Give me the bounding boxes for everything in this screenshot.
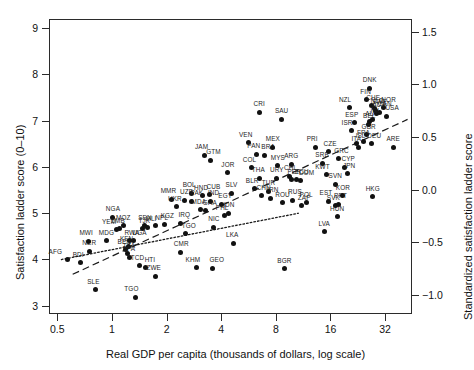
data-point <box>208 158 213 163</box>
y-tick-right <box>412 295 419 296</box>
point-label: CRI <box>254 101 265 107</box>
point-label: DEU <box>367 133 381 139</box>
x-tick <box>276 314 277 321</box>
data-point <box>93 287 98 292</box>
data-point <box>86 239 91 244</box>
y-axis-title-left: Satisfaction ladder score (0–10) <box>14 125 26 280</box>
data-point <box>182 198 187 203</box>
point-label: ARE <box>386 136 399 142</box>
point-label: SLV <box>226 182 238 188</box>
y-tick-right <box>412 137 419 138</box>
point-label: SRB <box>315 152 328 158</box>
y-tick-left <box>42 306 49 307</box>
data-point <box>153 274 158 279</box>
point-label: COL <box>243 157 256 163</box>
data-point <box>87 249 92 254</box>
y-tick-left <box>42 74 49 75</box>
point-label: ARG <box>284 153 298 159</box>
point-label: KGZ <box>161 213 174 219</box>
data-point <box>262 153 267 158</box>
y-tick-label-right: 0.0 <box>422 184 437 196</box>
data-point <box>268 196 273 201</box>
data-point <box>65 257 70 262</box>
point-label: TGO <box>182 222 196 228</box>
point-label: HUN <box>330 205 344 211</box>
point-label: BFA <box>123 246 135 252</box>
data-point <box>78 260 83 265</box>
point-label: SVN <box>329 173 342 179</box>
x-tick-label: 4 <box>218 323 224 335</box>
data-point <box>335 214 340 219</box>
y-tick-left <box>42 28 49 29</box>
x-tick-label: 8 <box>273 323 279 335</box>
point-label: PAN <box>247 143 260 149</box>
point-label: UKR <box>168 195 182 201</box>
point-label: KOR <box>336 184 350 190</box>
x-tick-label: 0.5 <box>50 323 65 335</box>
point-label: VEN <box>239 131 252 137</box>
point-label: USA <box>385 105 398 111</box>
data-point <box>391 145 396 150</box>
x-tick <box>112 314 113 321</box>
data-point <box>384 114 389 119</box>
x-tick <box>385 314 386 321</box>
point-label: MDG <box>99 229 114 235</box>
point-label: GRC <box>334 147 349 153</box>
point-label: NIC <box>208 216 219 222</box>
point-label: NZL <box>339 96 351 102</box>
y-tick-label-right: 1.0 <box>422 78 437 90</box>
point-label: GEO <box>210 257 225 263</box>
y-tick-label-left: 8 <box>32 68 38 80</box>
point-label: SAU <box>275 108 288 114</box>
x-tick <box>330 314 331 321</box>
data-point <box>361 139 366 144</box>
data-point <box>178 250 183 255</box>
point-label: YEM <box>102 219 116 225</box>
y-tick-label-left: 4 <box>32 253 38 265</box>
y-tick-right <box>412 84 419 85</box>
y-tick-right <box>412 32 419 33</box>
y-tick-label-right: −0.5 <box>422 236 443 248</box>
x-tick-label: 1 <box>109 323 115 335</box>
point-label: LVA <box>319 220 330 226</box>
point-label: TCD <box>131 255 144 261</box>
point-label: SLE <box>87 278 99 284</box>
y-tick-label-left: 9 <box>32 22 38 34</box>
x-tick-label: 32 <box>379 323 391 335</box>
x-tick <box>221 314 222 321</box>
point-label: ISR <box>342 120 353 126</box>
data-point <box>345 171 350 176</box>
y-tick-left <box>42 213 49 214</box>
point-label: ESP <box>345 111 358 117</box>
y-tick-left <box>42 121 49 122</box>
point-label: KHM <box>186 256 201 262</box>
point-label: CMR <box>174 241 189 247</box>
point-label: EST <box>320 190 333 196</box>
point-label: PHL <box>216 204 229 210</box>
data-point <box>257 110 262 115</box>
x-tick-label: 2 <box>164 323 170 335</box>
scatter-plot-figure: Satisfaction ladder score (0–10) Standar… <box>0 0 474 370</box>
y-axis-title-right: Standardized satisfaction ladder score <box>462 134 474 321</box>
data-point <box>162 222 167 227</box>
data-point <box>133 295 138 300</box>
y-tick-label-right: 1.5 <box>422 26 437 38</box>
point-label: ROU <box>275 191 290 197</box>
point-label: HTI <box>145 256 156 262</box>
point-label: KWT <box>315 163 330 169</box>
point-label: LKA <box>226 232 238 238</box>
plot-area: AFGBDINERMWISLEMDGZWETGOMOZNGAZMBYEMRWAU… <box>49 19 412 314</box>
y-tick-left <box>42 259 49 260</box>
y-tick-left <box>42 167 49 168</box>
y-tick-label-left: 6 <box>32 161 38 173</box>
point-label: NGA <box>106 206 120 212</box>
point-label: BGR <box>277 257 291 263</box>
point-label: DNK <box>363 77 377 83</box>
data-point <box>270 145 275 150</box>
point-label: BDI <box>73 251 84 257</box>
point-label: ZAF <box>298 194 310 200</box>
point-label: IRQ <box>178 212 190 218</box>
point-label: MEX <box>266 136 280 142</box>
y-tick-label-left: 3 <box>32 300 38 312</box>
point-label: URY <box>270 167 284 173</box>
